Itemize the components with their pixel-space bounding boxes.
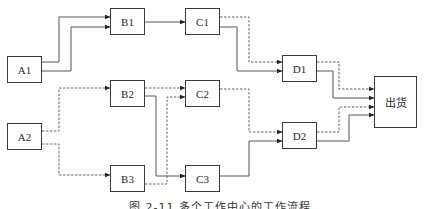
node-d2-label: D2 [293, 130, 306, 142]
node-a1-label: A1 [18, 64, 31, 76]
node-b3-label: B3 [121, 173, 134, 185]
figure-caption: 图 2-11 多个工作中心的工作流程 [120, 199, 320, 209]
edge-b3-c2 [145, 97, 185, 184]
edge-d1-ship-solid [317, 71, 374, 98]
edge-c2-d2 [220, 89, 282, 132]
edge-c3-d2 [220, 141, 282, 176]
node-c2-label: C2 [196, 88, 209, 100]
node-b1-label: B1 [121, 16, 134, 28]
node-a2: A2 [7, 123, 42, 150]
node-a2-label: A2 [18, 131, 31, 143]
node-d2: D2 [282, 122, 317, 149]
flow-diagram: A1 A2 B1 B2 B3 C1 C2 C3 D1 D2 出货 图 2-11 … [0, 0, 424, 209]
node-b2-label: B2 [121, 88, 134, 100]
node-shipment: 出货 [374, 76, 417, 128]
node-c3-label: C3 [196, 173, 209, 185]
edge-d1-ship-dashed [317, 62, 374, 89]
edge-a1-b1-lower [42, 27, 110, 71]
node-c2: C2 [185, 80, 220, 107]
node-c1-label: C1 [196, 16, 209, 28]
node-c1: C1 [185, 8, 220, 35]
node-b3: B3 [110, 165, 145, 192]
edge-c1-d1-solid [220, 27, 282, 71]
node-b1: B1 [110, 8, 145, 35]
node-d1: D1 [282, 55, 317, 82]
edge-d2-ship-solid [317, 115, 374, 141]
edge-b2-c3 [145, 96, 185, 176]
node-c3: C3 [185, 165, 220, 192]
node-a1: A1 [7, 56, 42, 83]
edge-a2-b2 [42, 88, 110, 131]
node-d1-label: D1 [293, 63, 306, 75]
edge-a2-b3 [42, 144, 110, 175]
edge-a1-b1-upper [42, 17, 110, 62]
node-shipment-label: 出货 [385, 94, 407, 110]
edge-d2-ship-dashed [317, 107, 374, 132]
node-b2: B2 [110, 80, 145, 107]
edge-c1-d1-dashed [220, 17, 282, 62]
